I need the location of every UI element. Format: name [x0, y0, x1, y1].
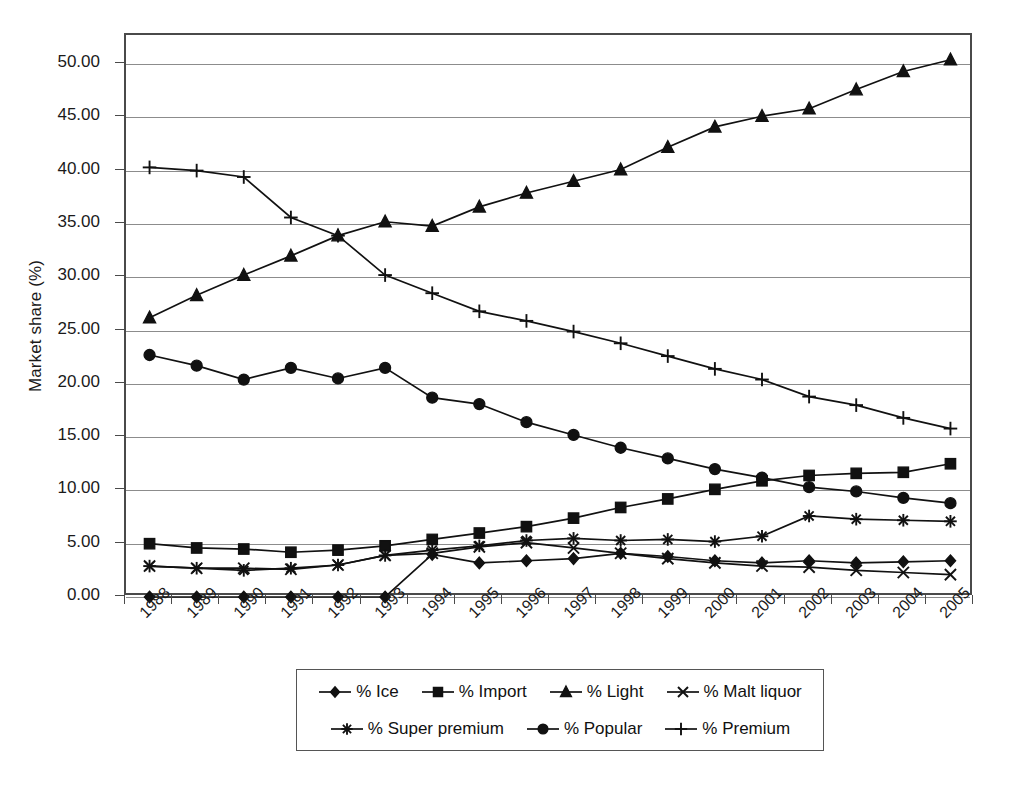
triangle-marker-icon	[549, 683, 583, 701]
series-layer	[126, 35, 974, 597]
y-tick-label: 30.00	[0, 265, 100, 285]
y-tick-label: 5.00	[0, 532, 100, 552]
y-tick-label: 20.00	[0, 372, 100, 392]
legend-label: % Popular	[564, 719, 642, 739]
legend-item-import[interactable]: % Import	[421, 682, 527, 702]
series-premium	[143, 161, 957, 436]
market-share-line-chart: Market share (%) 0.005.0010.0015.0020.00…	[0, 0, 1014, 786]
gridline	[126, 224, 970, 225]
square-marker-icon	[421, 683, 455, 701]
legend-label: % Light	[587, 682, 644, 702]
legend-label: % Super premium	[368, 719, 504, 739]
y-tick-label: 45.00	[0, 105, 100, 125]
gridline	[126, 437, 970, 438]
gridline	[126, 277, 970, 278]
y-tick-label: 15.00	[0, 425, 100, 445]
legend-item-premium[interactable]: % Premium	[664, 719, 790, 739]
legend-label: % Malt liquor	[704, 682, 802, 702]
chart-legend: % Ice% Import% Light% Malt liquor % Supe…	[296, 669, 824, 751]
legend-item-popular[interactable]: % Popular	[526, 719, 642, 739]
series-light	[143, 53, 956, 323]
plot-area	[124, 33, 972, 595]
gridline	[126, 490, 970, 491]
x-marker-icon	[666, 683, 700, 701]
circle-marker-icon	[526, 720, 560, 738]
y-tick-mark	[115, 115, 124, 116]
legend-row-2: % Super premium% Popular% Premium	[297, 710, 823, 747]
legend-item-malt-liquor[interactable]: % Malt liquor	[666, 682, 802, 702]
gridline	[126, 117, 970, 118]
gridline	[126, 384, 970, 385]
x-tick-mark	[124, 595, 125, 604]
gridline	[126, 64, 970, 65]
legend-item-super-premium[interactable]: % Super premium	[330, 719, 504, 739]
y-tick-label: 35.00	[0, 212, 100, 232]
y-tick-mark	[115, 62, 124, 63]
series-popular	[144, 350, 956, 509]
y-tick-label: 50.00	[0, 52, 100, 72]
y-tick-mark	[115, 222, 124, 223]
y-tick-mark	[115, 329, 124, 330]
diamond-marker-icon	[318, 683, 352, 701]
y-tick-mark	[115, 275, 124, 276]
legend-label: % Import	[459, 682, 527, 702]
y-tick-label: 25.00	[0, 319, 100, 339]
y-tick-mark	[115, 595, 124, 596]
y-tick-mark	[115, 488, 124, 489]
legend-item-light[interactable]: % Light	[549, 682, 644, 702]
y-tick-mark	[115, 169, 124, 170]
gridline	[126, 544, 970, 545]
y-tick-label: 40.00	[0, 159, 100, 179]
series-import	[144, 459, 955, 558]
gridline	[126, 171, 970, 172]
asterisk-marker-icon	[330, 720, 364, 738]
gridline	[126, 331, 970, 332]
plus-marker-icon	[664, 720, 698, 738]
y-tick-label: 0.00	[0, 585, 100, 605]
y-tick-mark	[115, 542, 124, 543]
y-tick-mark	[115, 382, 124, 383]
legend-label: % Premium	[702, 719, 790, 739]
y-tick-label: 10.00	[0, 478, 100, 498]
legend-row-1: % Ice% Import% Light% Malt liquor	[297, 673, 823, 710]
y-tick-mark	[115, 435, 124, 436]
legend-label: % Ice	[356, 682, 399, 702]
legend-item-ice[interactable]: % Ice	[318, 682, 399, 702]
